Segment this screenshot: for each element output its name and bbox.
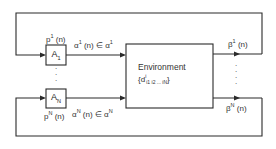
beta1-label: β1 (n) [228,40,248,49]
pN-label: pN (n) [44,112,64,121]
environment-title: Environment [138,62,186,72]
arrowhead-alphaN [120,96,126,101]
environment-set: {dii1 i2 ... iN} [138,73,170,85]
betaN-label: βN (n) [226,104,247,113]
right-vertical-dots: ···· [232,63,240,87]
alpha1-label: α1 (n) ∈ α1 [74,41,113,50]
automaton-an-label: AN [46,92,66,104]
alphaN-label: αN (n) ∈ αN [72,110,113,119]
arrowhead-beta1 [234,52,240,57]
p1-label: p1 (n) [46,35,66,44]
arrowhead-alpha1 [120,53,126,58]
arrowhead-betaN [234,96,240,101]
automaton-a1-label: A1 [46,49,66,61]
left-vertical-dots: ··· [52,66,60,84]
